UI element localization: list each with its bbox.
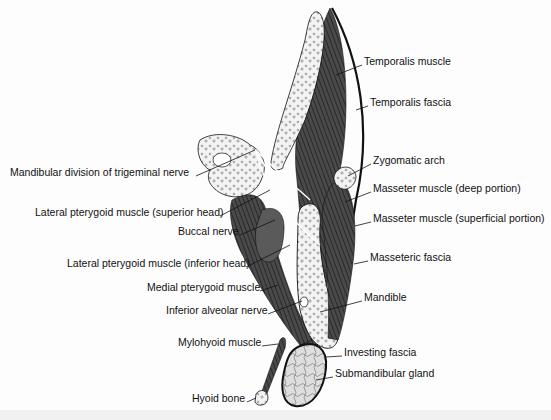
label-investing-fascia: Investing fascia xyxy=(344,346,416,358)
label-zygomatic-arch: Zygomatic arch xyxy=(373,154,445,166)
label-masseter-superficial-portion: Masseter muscle (superficial portion) xyxy=(373,212,545,224)
label-mylohyoid-muscle: Mylohyoid muscle xyxy=(178,336,261,348)
label-mandible: Mandible xyxy=(364,291,407,303)
label-medial-pterygoid-muscle: Medial pterygoid muscle xyxy=(147,281,260,293)
label-masseteric-fascia: Masseteric fascia xyxy=(370,251,451,263)
label-submandibular-gland: Submandibular gland xyxy=(335,367,434,379)
zygomatic-arch xyxy=(334,167,356,189)
label-masseter-deep-portion: Masseter muscle (deep portion) xyxy=(373,182,521,194)
label-temporalis-fascia: Temporalis fascia xyxy=(370,96,451,108)
label-temporalis-muscle: Temporalis muscle xyxy=(364,55,451,67)
hyoid-bone xyxy=(255,391,268,406)
label-mandibular-division-trigeminal-nerve: Mandibular division of trigeminal nerve xyxy=(10,166,189,178)
label-hyoid-bone: Hyoid bone xyxy=(192,392,245,404)
inferior-alveolar-nerve-section xyxy=(300,297,308,307)
skull-base-bone xyxy=(198,135,264,197)
label-lateral-pterygoid-superior-head: Lateral pterygoid muscle (superior head) xyxy=(35,206,224,218)
submandibular-gland xyxy=(282,344,326,406)
anatomy-figure: Mandibular division of trigeminal nerve … xyxy=(0,0,551,420)
cropped-caption-strip xyxy=(0,410,551,420)
label-buccal-nerve: Buccal nerve xyxy=(178,225,239,237)
label-lateral-pterygoid-inferior-head: Lateral pterygoid muscle (inferior head) xyxy=(67,257,250,269)
label-inferior-alveolar-nerve: Inferior alveolar nerve xyxy=(166,304,268,316)
